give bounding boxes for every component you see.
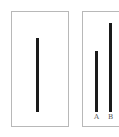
comparison-panel <box>82 11 119 127</box>
reference-bar <box>36 38 39 112</box>
bar-a-label: A <box>92 113 101 121</box>
reference-panel <box>11 11 69 127</box>
bar-b-label: B <box>106 113 115 121</box>
bar-b <box>109 23 112 112</box>
bar-a <box>95 51 98 112</box>
